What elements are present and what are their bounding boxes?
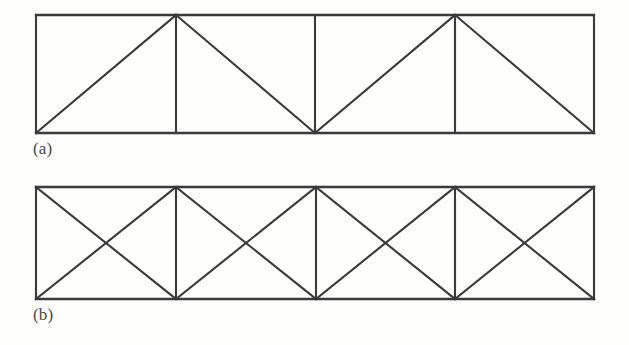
truss-diagram-a <box>36 15 594 133</box>
truss-a-diagonal-3 <box>315 15 455 133</box>
caption-label-a: (a) <box>33 140 52 157</box>
truss-diagram-b <box>36 187 594 299</box>
caption-label-b: (b) <box>33 306 53 323</box>
truss-a-diagonal-2 <box>176 15 315 133</box>
truss-a-diagonal-4 <box>455 15 594 133</box>
truss-figure-canvas <box>0 0 629 345</box>
figure-root: (a) (b) <box>0 0 629 345</box>
truss-a-diagonal-1 <box>36 15 176 133</box>
